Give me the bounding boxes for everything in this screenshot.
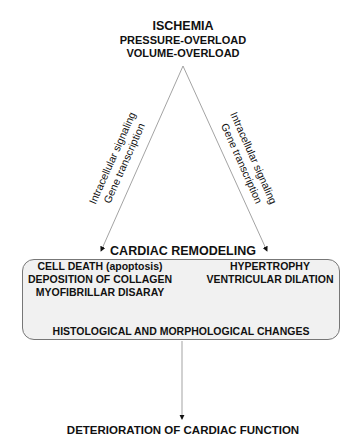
left-item: CELL DEATH (apoptosis) <box>22 260 178 273</box>
outcome-label: DETERIORATION OF CARDIAC FUNCTION <box>0 424 360 436</box>
connector-lines <box>0 0 360 448</box>
ischemia-label: ISCHEMIA <box>0 19 360 33</box>
left-item: DEPOSITION OF COLLAGEN <box>22 273 178 286</box>
right-item: VENTRICULAR DILATION <box>190 273 350 286</box>
cardiac-remodeling-title: CARDIAC REMODELING <box>0 244 360 258</box>
histological-changes-label: HISTOLOGICAL AND MORPHOLOGICAL CHANGES <box>22 325 340 337</box>
right-item: HYPERTROPHY <box>190 260 350 273</box>
remodeling-left-column: CELL DEATH (apoptosis) DEPOSITION OF COL… <box>22 260 178 299</box>
pressure-overload-label: PRESSURE-OVERLOAD <box>0 34 360 46</box>
remodeling-right-column: HYPERTROPHY VENTRICULAR DILATION <box>190 260 350 286</box>
left-item: MYOFIBRILLAR DISARAY <box>22 286 178 299</box>
volume-overload-label: VOLUME-OVERLOAD <box>0 47 360 59</box>
